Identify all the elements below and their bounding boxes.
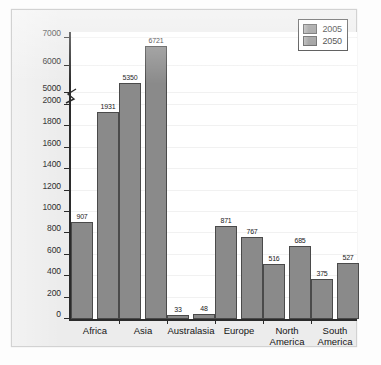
y-axis-tick-label: 6000 bbox=[42, 56, 61, 66]
gridline bbox=[71, 92, 357, 93]
legend-swatch-2050 bbox=[303, 36, 317, 46]
legend-item: 2050 bbox=[303, 35, 342, 47]
x-axis-tick bbox=[167, 319, 168, 324]
x-axis-label: Europe bbox=[215, 325, 263, 336]
y-axis-tick bbox=[64, 147, 71, 148]
x-axis-label: South America bbox=[311, 325, 359, 347]
bar-value-label: 375 bbox=[316, 270, 327, 277]
gridline bbox=[71, 65, 357, 66]
bar-2050: 48 bbox=[193, 314, 215, 319]
bar-2050: 685 bbox=[289, 246, 311, 319]
bar-value-label: 685 bbox=[294, 237, 305, 244]
legend-label-2050: 2050 bbox=[322, 36, 342, 46]
legend: 2005 2050 bbox=[298, 19, 348, 51]
bar-value-label: 1931 bbox=[101, 103, 116, 110]
x-axis-label: Australasia bbox=[167, 325, 215, 336]
bar-value-label: 6721 bbox=[149, 37, 164, 44]
y-axis-tick bbox=[64, 297, 71, 298]
y-axis-tick bbox=[64, 254, 71, 255]
bar-2050: 527 bbox=[337, 263, 359, 319]
x-axis-tick bbox=[263, 319, 264, 324]
axis-break-icon bbox=[65, 88, 78, 104]
y-axis-tick-label: 800 bbox=[47, 223, 61, 233]
bar-2005: 375 bbox=[311, 279, 333, 319]
bar-2050: 767 bbox=[241, 237, 263, 319]
bar-2050: 6721 bbox=[145, 46, 167, 319]
y-axis-tick-label: 200 bbox=[47, 288, 61, 298]
y-axis-tick-label: 7000 bbox=[42, 28, 61, 38]
y-axis-tick-label: 1400 bbox=[42, 159, 61, 169]
y-axis-tick-label: 5000 bbox=[42, 83, 61, 93]
y-axis-tick bbox=[64, 104, 71, 105]
x-axis-label: Africa bbox=[71, 325, 119, 336]
y-axis-tick-label: 2000 bbox=[42, 95, 61, 105]
bar-2005: 33 bbox=[167, 315, 189, 319]
bar-2005: 516 bbox=[263, 264, 285, 319]
bar-value-label: 33 bbox=[174, 306, 181, 313]
chart-page: Population (in millions) 020040060080010… bbox=[0, 0, 381, 365]
y-axis-tick bbox=[64, 37, 71, 38]
bar-value-label: 48 bbox=[200, 305, 207, 312]
bar-2050: 1931 bbox=[97, 112, 119, 319]
y-axis-tick bbox=[64, 125, 71, 126]
bar-value-label: 767 bbox=[246, 228, 257, 235]
y-axis-tick bbox=[64, 232, 71, 233]
y-axis-tick bbox=[64, 65, 71, 66]
y-axis-tick-label: 1000 bbox=[42, 202, 61, 212]
x-axis-label: Asia bbox=[119, 325, 167, 336]
x-axis-tick bbox=[215, 319, 216, 324]
y-axis-tick bbox=[64, 211, 71, 212]
y-axis-tick-label: 1800 bbox=[42, 116, 61, 126]
bar-2005: 5350 bbox=[119, 83, 141, 319]
bar-value-label: 527 bbox=[342, 254, 353, 261]
y-axis-tick-label: 0 bbox=[56, 309, 61, 319]
bar-2005: 871 bbox=[215, 226, 237, 319]
x-axis-tick bbox=[311, 319, 312, 324]
bar-value-label: 516 bbox=[268, 255, 279, 262]
bar-value-label: 871 bbox=[220, 217, 231, 224]
y-axis-tick-label: 600 bbox=[47, 245, 61, 255]
bar-value-label: 5350 bbox=[123, 74, 138, 81]
legend-item: 2005 bbox=[303, 23, 342, 35]
x-axis-tick bbox=[119, 319, 120, 324]
y-axis-tick-label: 1600 bbox=[42, 138, 61, 148]
legend-label-2005: 2005 bbox=[322, 24, 342, 34]
plot-area: 0200400600800100012001400160018002000500… bbox=[69, 32, 357, 321]
bar-value-label: 907 bbox=[76, 213, 87, 220]
y-axis-tick bbox=[64, 275, 71, 276]
chart-panel: Population (in millions) 020040060080010… bbox=[11, 9, 357, 347]
y-axis-tick bbox=[64, 168, 71, 169]
bar-2005: 907 bbox=[71, 222, 93, 319]
y-axis-tick-label: 400 bbox=[47, 266, 61, 276]
y-axis-tick bbox=[64, 190, 71, 191]
y-axis-tick-label: 1200 bbox=[42, 181, 61, 191]
legend-swatch-2005 bbox=[303, 24, 317, 34]
x-axis-label: North America bbox=[263, 325, 311, 347]
y-axis-tick bbox=[64, 318, 71, 319]
